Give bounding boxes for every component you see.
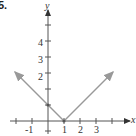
x-tick-label: -1 xyxy=(25,125,33,135)
y-tick-label: 3 xyxy=(38,55,43,65)
y-tick-label: 2 xyxy=(38,72,43,82)
y-intercept-point xyxy=(46,103,49,106)
y-axis-label: y xyxy=(45,1,49,11)
graph-plot xyxy=(0,0,136,136)
x-tick-label: 3 xyxy=(94,125,99,135)
right-branch xyxy=(64,72,113,121)
y-tick-label: 4 xyxy=(38,38,43,48)
x-tick-label: 1 xyxy=(62,125,67,135)
x-axis-label: x xyxy=(131,115,135,125)
vertex-point xyxy=(62,119,65,122)
x-tick-label: 2 xyxy=(78,125,83,135)
